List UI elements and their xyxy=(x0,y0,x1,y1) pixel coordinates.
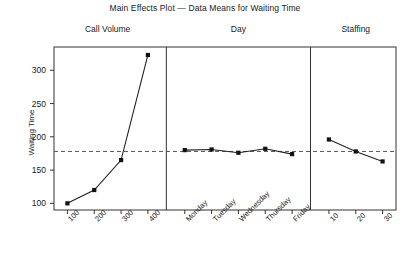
plot-canvas xyxy=(0,0,410,268)
main-effects-plot: Main Effects Plot — Data Means for Waiti… xyxy=(0,0,410,268)
